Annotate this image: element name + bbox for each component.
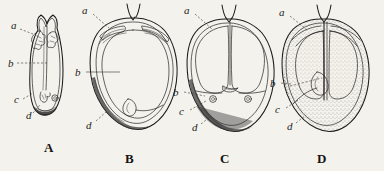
figure-d-caption: D	[317, 151, 327, 166]
figure-a-label-d: d	[26, 109, 32, 121]
figure-c-label-c: c	[179, 105, 184, 117]
figure-c-label-a: a	[184, 4, 190, 16]
figure-b-caption: B	[125, 151, 134, 166]
figure-b-label-d: d	[86, 119, 92, 131]
figure-a-label-a: a	[11, 19, 17, 31]
figure-c-caption: C	[220, 151, 230, 166]
figure-c-label-d: d	[192, 121, 198, 133]
figure-c-label-b: b	[173, 86, 179, 98]
figure-d-label-b: b	[270, 77, 276, 89]
figure-d-label-d: d	[287, 120, 293, 132]
figure-a-label-b: b	[8, 57, 14, 69]
figure-d-label-a: a	[279, 6, 285, 18]
figure-b-label-b: b	[75, 66, 81, 78]
figure-d-label-c: c	[275, 103, 280, 115]
figure-a-caption: A	[44, 140, 54, 155]
figure-a-label-c: c	[14, 93, 19, 105]
figure-plate: a b c d A a	[0, 0, 384, 171]
figure-b-label-a: a	[82, 4, 88, 16]
